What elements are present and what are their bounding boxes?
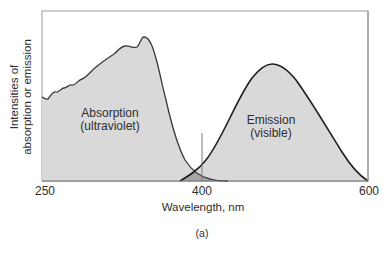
y-axis-label-line1: Intensities of xyxy=(8,39,21,155)
emission-label: Emission xyxy=(247,113,296,127)
figure-caption: (a) xyxy=(196,227,209,239)
spectrum-chart xyxy=(0,0,383,258)
absorption-sublabel: (ultraviolet) xyxy=(80,119,139,133)
x-tick-250: 250 xyxy=(35,184,55,198)
absorption-label: Absorption xyxy=(81,106,138,120)
y-axis-label-line2: absorption or emission xyxy=(21,39,34,155)
x-tick-400: 400 xyxy=(192,184,212,198)
x-axis-label: Wavelength, nm xyxy=(162,201,245,213)
y-axis-label: Intensities of absorption or emission xyxy=(8,39,34,155)
x-tick-600: 600 xyxy=(359,184,379,198)
emission-sublabel: (visible) xyxy=(250,126,291,140)
